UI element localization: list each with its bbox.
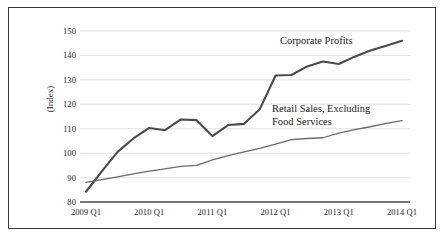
y-tick-label: 90 (54, 173, 76, 183)
y-tick-label: 140 (54, 50, 76, 60)
y-tick-label: 80 (54, 197, 76, 207)
x-tick-label: 2012 Q1 (251, 207, 301, 217)
x-tick-label: 2009 Q1 (61, 207, 111, 217)
y-tick-label: 100 (54, 148, 76, 158)
y-tick-label: 150 (54, 26, 76, 36)
series-label-corporate-profits: Corporate Profits (280, 35, 353, 48)
x-tick-label: 2011 Q1 (187, 207, 237, 217)
x-tick-label: 2013 Q1 (314, 207, 364, 217)
x-tick-label: 2014 Q1 (377, 207, 427, 217)
y-tick-label: 130 (54, 75, 76, 85)
series-line-retail-sales (86, 121, 402, 183)
x-tick-label: 2010 Q1 (124, 207, 174, 217)
y-tick-label: 120 (54, 99, 76, 109)
y-tick-label: 110 (54, 124, 76, 134)
series-label-retail-sales: Retail Sales, Excluding Food Services (272, 103, 370, 128)
